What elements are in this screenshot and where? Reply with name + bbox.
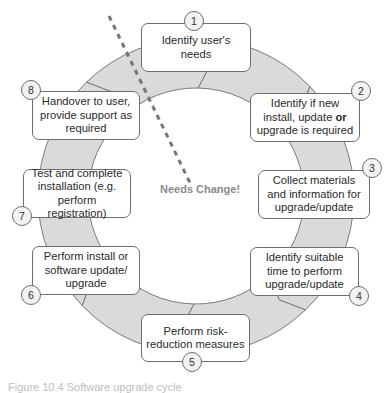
step-number-2: 2 (351, 81, 371, 101)
step-box-2: Identify if new install, update or upgra… (250, 93, 360, 142)
step-text-8: Handover to user, provide support as req… (37, 95, 135, 136)
step-text-5: Perform risk-reduction measures (146, 325, 245, 352)
step-number-8: 8 (21, 80, 41, 100)
step-box-4: Identify suitable time to perform upgrad… (250, 247, 359, 296)
step-box-6: Perform install or software update/ upgr… (32, 246, 140, 295)
step-box-8: Handover to user, provide support as req… (32, 91, 140, 140)
step-text-6: Perform install or software update/ upgr… (37, 250, 135, 291)
step-text-2: Identify if new install, update or upgra… (255, 97, 355, 138)
step-text-7: Test and complete installation (e.g. per… (28, 167, 126, 221)
step-number-1: 1 (184, 11, 204, 31)
needs-change-label: Needs Change! (160, 183, 240, 195)
figure-caption: Figure 10.4 Software upgrade cycle (8, 381, 182, 393)
step-box-3: Collect materials and information for up… (258, 170, 370, 219)
step-number-3: 3 (362, 158, 382, 178)
step-text-3: Collect materials and information for up… (263, 174, 365, 215)
step-number-5: 5 (182, 352, 202, 372)
step-number-7: 7 (12, 206, 32, 226)
step-text-1: Identify user's needs (146, 34, 246, 61)
step-box-7: Test and complete installation (e.g. per… (23, 169, 131, 218)
step-number-4: 4 (349, 286, 369, 306)
step-text-4: Identify suitable time to perform upgrad… (255, 251, 354, 292)
step-number-6: 6 (21, 285, 41, 305)
